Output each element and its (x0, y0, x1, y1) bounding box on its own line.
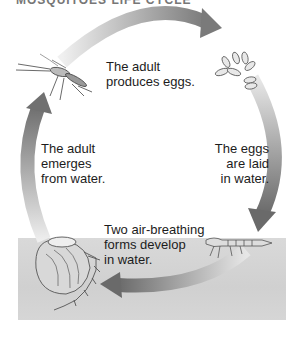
stage-label-eggs-laid: The eggs are laid in water. (209, 141, 269, 186)
label-line: The adult (106, 59, 195, 74)
mosquito-adult-icon (16, 54, 92, 100)
label-line: in water. (209, 171, 269, 186)
label-line: from water. (41, 171, 105, 186)
eggs-cluster-icon (214, 51, 257, 90)
label-line: forms develop (104, 237, 204, 252)
label-line: The adult (41, 141, 105, 156)
stage-label-forms-develop: Two air-breathing forms develop in water… (104, 222, 204, 267)
pupa-icon (36, 237, 100, 310)
stage-label-adult-emerges: The adult emerges from water. (41, 141, 105, 186)
label-line: The eggs (209, 141, 269, 156)
label-line: emerges (41, 156, 105, 171)
arrow-top (62, 8, 222, 62)
label-line: in water. (104, 252, 204, 267)
stage-label-adult-produces-eggs: The adult produces eggs. (106, 59, 195, 89)
label-line: produces eggs. (106, 74, 195, 89)
label-line: Two air-breathing (104, 222, 204, 237)
label-line: are laid (209, 156, 269, 171)
